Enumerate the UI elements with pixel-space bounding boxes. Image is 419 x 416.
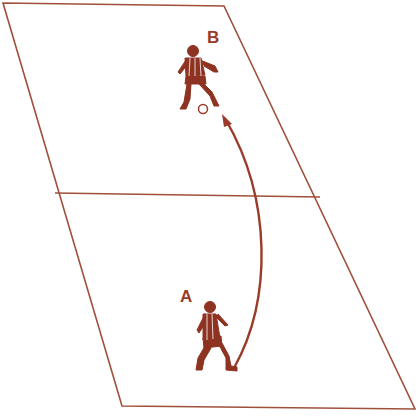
player-a-label: A	[180, 287, 192, 307]
ball-icon	[199, 105, 208, 114]
player-b-label: B	[207, 28, 219, 48]
arrowhead-icon	[222, 114, 232, 127]
player-a-figure	[196, 302, 237, 372]
drill-diagram	[0, 0, 419, 416]
player-b-figure	[178, 46, 219, 110]
halfway-line	[55, 193, 320, 197]
pass-arrow	[226, 120, 262, 368]
